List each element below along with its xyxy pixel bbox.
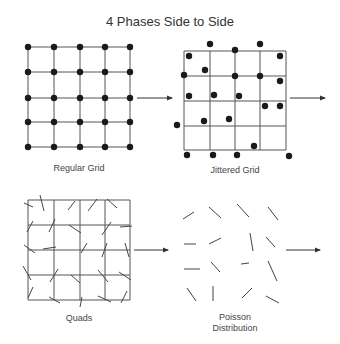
pen-stroke bbox=[121, 291, 127, 303]
pen-stroke bbox=[211, 262, 220, 272]
sample-point bbox=[236, 93, 242, 99]
sample-point bbox=[51, 69, 57, 75]
quads-label: Quads bbox=[29, 313, 129, 324]
pen-stroke bbox=[23, 266, 31, 280]
sample-point bbox=[232, 47, 238, 53]
sample-point bbox=[51, 95, 57, 101]
sample-point bbox=[251, 143, 257, 149]
sample-point bbox=[211, 92, 217, 98]
jittered-grid-label: Jittered Grid bbox=[185, 165, 285, 176]
pen-stroke bbox=[237, 204, 249, 217]
pen-stroke bbox=[209, 238, 221, 244]
pen-stroke bbox=[69, 225, 81, 233]
sample-point bbox=[102, 69, 108, 75]
pen-stroke bbox=[241, 263, 249, 264]
pen-stroke bbox=[183, 212, 194, 219]
sample-point bbox=[127, 95, 133, 101]
pen-stroke bbox=[266, 296, 279, 303]
pen-stroke bbox=[81, 243, 87, 253]
poisson-label-line1: Poisson bbox=[185, 312, 285, 323]
sample-point bbox=[127, 144, 133, 150]
pen-stroke bbox=[209, 207, 221, 218]
sample-point bbox=[232, 73, 238, 79]
poisson-distribution-panel bbox=[183, 204, 279, 303]
sample-point bbox=[102, 44, 108, 50]
sample-point bbox=[277, 78, 283, 84]
poisson-label-line2: Distribution bbox=[185, 323, 285, 334]
sample-point bbox=[210, 152, 216, 158]
sample-point bbox=[127, 119, 133, 125]
sample-point bbox=[181, 72, 187, 78]
sample-point bbox=[51, 119, 57, 125]
sample-point bbox=[25, 44, 31, 50]
sample-point bbox=[77, 119, 83, 125]
sample-point bbox=[127, 44, 133, 50]
sample-point bbox=[25, 144, 31, 150]
sample-point bbox=[257, 73, 263, 79]
sample-point bbox=[186, 53, 192, 59]
sample-point bbox=[77, 144, 83, 150]
sample-point bbox=[234, 152, 240, 158]
quads-panel bbox=[23, 195, 132, 307]
sample-point bbox=[51, 144, 57, 150]
sample-point bbox=[201, 118, 207, 124]
pen-stroke bbox=[250, 233, 253, 251]
sample-point bbox=[51, 44, 57, 50]
sample-point bbox=[262, 103, 268, 109]
pen-stroke bbox=[187, 288, 196, 301]
sample-point bbox=[127, 69, 133, 75]
sample-point bbox=[25, 69, 31, 75]
jittered-grid-panel bbox=[174, 41, 292, 159]
pen-stroke bbox=[119, 272, 131, 280]
sample-point bbox=[25, 95, 31, 101]
sample-point bbox=[226, 116, 232, 122]
pen-stroke bbox=[268, 261, 277, 281]
pen-stroke bbox=[266, 237, 275, 247]
pen-stroke bbox=[28, 287, 33, 298]
sample-point bbox=[77, 44, 83, 50]
pen-stroke bbox=[88, 199, 97, 211]
sample-point bbox=[102, 144, 108, 150]
pen-stroke bbox=[98, 270, 108, 282]
sample-point bbox=[184, 152, 190, 158]
sample-point bbox=[202, 67, 208, 73]
regular-grid-label: Regular Grid bbox=[29, 163, 129, 174]
pen-stroke bbox=[24, 245, 35, 253]
sample-point bbox=[77, 95, 83, 101]
sample-point bbox=[207, 41, 213, 47]
sample-point bbox=[102, 119, 108, 125]
pen-stroke bbox=[102, 222, 111, 235]
sample-point bbox=[286, 153, 292, 159]
sample-point bbox=[277, 103, 283, 109]
pen-stroke bbox=[68, 201, 75, 210]
sample-point bbox=[102, 95, 108, 101]
sample-point bbox=[277, 53, 283, 59]
pen-stroke bbox=[268, 207, 278, 220]
sample-point bbox=[174, 122, 180, 128]
regular-grid-panel bbox=[25, 44, 133, 150]
sample-point bbox=[25, 119, 31, 125]
pen-stroke bbox=[71, 275, 80, 283]
pen-stroke bbox=[242, 288, 252, 298]
sample-point bbox=[77, 69, 83, 75]
sample-point bbox=[186, 93, 192, 99]
pen-stroke bbox=[40, 195, 44, 211]
sample-point bbox=[257, 41, 263, 47]
poisson-distribution-label: Poisson Distribution bbox=[185, 312, 285, 334]
